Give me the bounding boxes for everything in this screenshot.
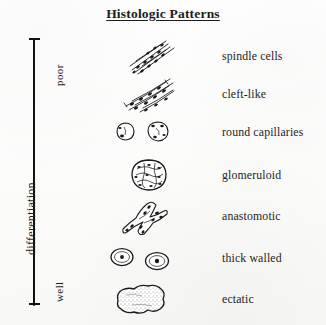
glomeruloid-sketch: [60, 155, 212, 195]
pattern-label: cleft-like: [222, 87, 266, 102]
pattern-label: ectatic: [222, 292, 254, 307]
anastomotic-sketch: [60, 196, 212, 236]
spindle-cells-sketch: [60, 36, 212, 76]
pattern-row: anastomotic: [60, 196, 326, 236]
cleft-like-sketch: [60, 74, 212, 114]
differentiation-axis-line: [33, 38, 35, 306]
pattern-row: cleft-like: [60, 74, 326, 114]
pattern-row: thick walled: [60, 238, 326, 278]
page-title: Histologic Patterns: [0, 6, 326, 22]
round-capillaries-sketch: [60, 112, 212, 152]
pattern-label: spindle cells: [222, 49, 283, 64]
pattern-label: thick walled: [222, 251, 282, 266]
pattern-label: glomeruloid: [222, 168, 281, 183]
pattern-label: anastomotic: [222, 209, 281, 224]
ectatic-sketch: [60, 279, 212, 319]
axis-top-cap: [29, 38, 40, 40]
pattern-row: glomeruloid: [60, 155, 326, 195]
thick-walled-sketch: [60, 238, 212, 278]
pattern-row: round capillaries: [60, 112, 326, 152]
pattern-label: round capillaries: [222, 125, 304, 140]
axis-bottom-cap: [29, 303, 40, 305]
pattern-row: spindle cells: [60, 36, 326, 76]
axis-title-differentiation: differentiation: [24, 182, 39, 255]
pattern-row: ectatic: [60, 279, 326, 319]
histologic-patterns-figure: Histologic Patterns poor differentiation…: [0, 0, 326, 325]
